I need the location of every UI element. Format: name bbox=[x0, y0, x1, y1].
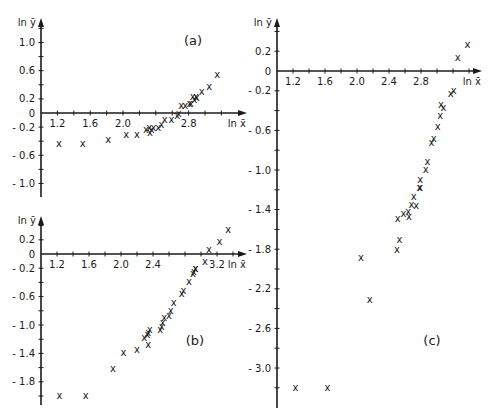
data-point-marker: x bbox=[162, 114, 168, 125]
data-point-marker: x bbox=[455, 52, 461, 63]
data-point-marker: x bbox=[464, 39, 470, 50]
x-axis-title: ln x̄ bbox=[463, 76, 481, 87]
scatter-chart-panels: 1.21.62.02.81.00.60.20- 0.2- 0.6- 1.0ln … bbox=[0, 0, 492, 420]
y-tick-label: - 1.0 bbox=[248, 165, 271, 176]
data-point-marker: x bbox=[56, 390, 62, 401]
y-tick-label: - 1.8 bbox=[248, 244, 271, 255]
data-point-marker: x bbox=[367, 294, 373, 305]
y-axis-arrow-icon bbox=[38, 18, 44, 27]
y-tick-label: - 2.6 bbox=[248, 323, 271, 334]
data-point-marker: x bbox=[394, 244, 400, 255]
y-tick-label: - 3.0 bbox=[248, 363, 271, 374]
y-tick-label: 0 bbox=[265, 66, 271, 77]
data-point-marker: x bbox=[134, 129, 140, 140]
data-point-marker: x bbox=[216, 236, 222, 247]
data-point-marker: x bbox=[80, 138, 86, 149]
x-tick-label: 1.6 bbox=[317, 76, 333, 87]
x-tick-label: 2.0 bbox=[115, 118, 131, 129]
data-point-marker: x bbox=[206, 244, 212, 255]
y-tick-label: - 1.0 bbox=[12, 320, 35, 331]
data-point-marker: x bbox=[134, 344, 140, 355]
data-point-marker: x bbox=[105, 134, 111, 145]
x-tick-label: 2.4 bbox=[145, 259, 161, 270]
y-axis-title: ln ȳ bbox=[254, 17, 272, 28]
data-point-marker: x bbox=[83, 390, 89, 401]
y-tick-label: 0.2 bbox=[19, 93, 35, 104]
data-point-marker: x bbox=[171, 297, 177, 308]
data-point-marker: x bbox=[202, 256, 208, 267]
data-point-marker: x bbox=[192, 263, 198, 274]
x-tick-label: 2.4 bbox=[381, 76, 397, 87]
data-point-marker: x bbox=[206, 81, 212, 92]
x-tick-label: 2.8 bbox=[413, 76, 429, 87]
y-tick-label: 0.2 bbox=[255, 46, 271, 57]
data-point-marker: x bbox=[292, 382, 298, 393]
y-tick-label: 0.2 bbox=[19, 234, 35, 245]
y-tick-label: 0 bbox=[29, 249, 35, 260]
x-tick-label: 2.8 bbox=[181, 118, 197, 129]
x-tick-label: 1.2 bbox=[49, 118, 65, 129]
y-tick-label: 1.0 bbox=[19, 37, 35, 48]
data-point-marker: x bbox=[110, 363, 116, 374]
data-point-marker: x bbox=[324, 382, 330, 393]
y-axis-title: ln ȳ bbox=[18, 17, 36, 28]
data-point-marker: x bbox=[440, 102, 446, 113]
y-tick-label: - 1.0 bbox=[12, 178, 35, 189]
y-tick-label: - 0.6 bbox=[12, 291, 35, 302]
y-tick-label: - 1.8 bbox=[12, 376, 35, 387]
data-point-marker: x bbox=[120, 347, 126, 358]
y-axis-title: ln ȳ bbox=[18, 215, 36, 226]
x-axis-arrow-icon bbox=[238, 251, 247, 257]
x-tick-label: 1.6 bbox=[81, 259, 97, 270]
y-tick-label: - 0.2 bbox=[12, 122, 35, 133]
data-point-marker: x bbox=[56, 138, 62, 149]
y-tick-label: 0 bbox=[29, 108, 35, 119]
x-axis-title: ln x̄ bbox=[228, 259, 246, 270]
data-point-marker: x bbox=[199, 86, 205, 97]
data-point-marker: x bbox=[435, 121, 441, 132]
x-axis-arrow-icon bbox=[473, 68, 482, 74]
data-point-marker: x bbox=[225, 224, 231, 235]
x-axis-title: ln x̄ bbox=[228, 118, 246, 129]
panel-a: 1.21.62.02.81.00.60.20- 0.2- 0.6- 1.0ln … bbox=[12, 17, 247, 197]
x-tick-label: 1.2 bbox=[285, 76, 301, 87]
data-point-marker: x bbox=[149, 124, 155, 135]
y-tick-label: 0.6 bbox=[19, 65, 35, 76]
data-point-marker: x bbox=[123, 129, 129, 140]
data-point-marker: x bbox=[214, 69, 220, 80]
data-point-marker: x bbox=[147, 324, 153, 335]
data-point-marker: x bbox=[431, 133, 437, 144]
y-axis-arrow-icon bbox=[38, 216, 44, 225]
y-tick-label: - 2.2 bbox=[248, 283, 271, 294]
panel-label: (a) bbox=[184, 33, 202, 48]
x-tick-label: 2.0 bbox=[349, 76, 365, 87]
panel-label: (b) bbox=[186, 333, 204, 348]
x-tick-label: 1.2 bbox=[49, 259, 65, 270]
panel-label: (c) bbox=[423, 333, 440, 348]
data-point-marker: x bbox=[396, 234, 402, 245]
panel-c: 1.21.62.02.42.80.20- 0.2- 0.6- 1.0- 1.4-… bbox=[248, 17, 482, 408]
data-point-marker: x bbox=[424, 156, 430, 167]
y-tick-label: - 0.2 bbox=[248, 85, 271, 96]
x-tick-label: 2.0 bbox=[113, 259, 129, 270]
y-tick-label: - 0.6 bbox=[12, 150, 35, 161]
y-tick-label: - 0.6 bbox=[248, 125, 271, 136]
y-axis-arrow-icon bbox=[274, 18, 280, 27]
x-axis-arrow-icon bbox=[238, 110, 247, 116]
data-point-marker: x bbox=[358, 252, 364, 263]
x-tick-label: 3.2 bbox=[209, 259, 225, 270]
y-tick-label: - 1.4 bbox=[12, 348, 35, 359]
y-tick-label: - 1.4 bbox=[248, 204, 271, 215]
panel-b: 1.21.62.02.43.20.20- 0.2- 0.6- 1.0- 1.4-… bbox=[12, 215, 247, 405]
data-point-marker: x bbox=[451, 85, 457, 96]
x-tick-label: 1.6 bbox=[82, 118, 98, 129]
data-point-marker: x bbox=[417, 182, 423, 193]
data-point-marker: x bbox=[145, 339, 151, 350]
y-tick-label: - 0.2 bbox=[12, 263, 35, 274]
figure: 1.21.62.02.81.00.60.20- 0.2- 0.6- 1.0ln … bbox=[0, 0, 492, 420]
